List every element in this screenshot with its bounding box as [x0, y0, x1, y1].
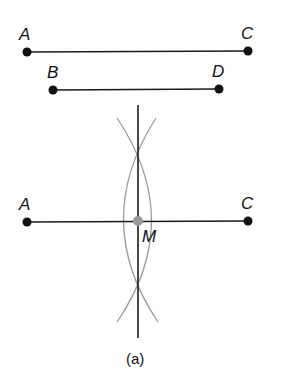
point-a-top [23, 48, 32, 57]
figure-caption: (a) [126, 350, 144, 367]
point-c-bottom [244, 217, 253, 226]
label-c-bottom: C [241, 194, 254, 213]
midpoint-m [133, 216, 143, 226]
diagram-svg: A C B D A C M [0, 0, 286, 373]
point-c-top [244, 47, 253, 56]
label-m: M [142, 227, 157, 246]
label-c-top: C [241, 24, 254, 43]
label-b: B [47, 63, 58, 82]
perpendicular-bisector-figure: A C B D A C M [0, 0, 286, 373]
point-d [215, 85, 224, 94]
segment-bd: B D [47, 62, 224, 95]
label-a-top: A [18, 25, 30, 44]
label-a-bottom: A [18, 195, 30, 214]
point-a-bottom [23, 218, 32, 227]
label-d: D [212, 62, 224, 81]
segment-ac-top: A C [18, 24, 254, 57]
point-b [49, 86, 58, 95]
